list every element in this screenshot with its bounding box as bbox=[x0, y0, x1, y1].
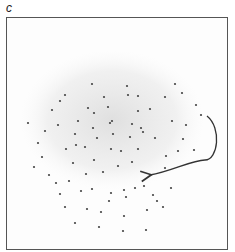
data-point bbox=[123, 189, 125, 191]
data-point bbox=[93, 112, 95, 114]
data-point bbox=[59, 100, 61, 102]
data-point bbox=[123, 215, 125, 217]
data-point bbox=[110, 148, 112, 150]
data-point bbox=[59, 193, 61, 195]
data-point bbox=[111, 120, 113, 122]
data-point bbox=[75, 144, 77, 146]
data-point bbox=[127, 94, 129, 96]
data-point bbox=[177, 150, 179, 152]
data-point bbox=[171, 120, 173, 122]
data-point bbox=[125, 196, 127, 198]
data-point bbox=[200, 114, 202, 116]
data-point bbox=[131, 123, 133, 125]
data-point bbox=[41, 156, 43, 158]
data-point bbox=[134, 187, 136, 189]
data-point bbox=[170, 187, 172, 189]
data-point bbox=[110, 192, 112, 194]
data-point bbox=[74, 133, 76, 135]
data-point bbox=[109, 122, 111, 124]
data-point bbox=[102, 171, 104, 173]
data-point bbox=[122, 230, 124, 232]
data-point bbox=[51, 109, 53, 111]
data-point bbox=[108, 200, 110, 202]
data-point bbox=[162, 206, 164, 208]
data-point bbox=[146, 209, 148, 211]
data-point bbox=[65, 148, 67, 150]
data-point bbox=[103, 96, 105, 98]
data-point bbox=[152, 194, 154, 196]
data-point bbox=[74, 222, 76, 224]
data-point bbox=[149, 108, 151, 110]
data-point bbox=[48, 174, 50, 176]
data-point bbox=[72, 162, 74, 164]
data-point bbox=[131, 161, 133, 163]
data-point bbox=[143, 185, 145, 187]
data-point bbox=[33, 166, 35, 168]
data-point bbox=[145, 229, 147, 231]
data-point bbox=[64, 206, 66, 208]
data-point bbox=[174, 83, 176, 85]
data-point bbox=[156, 200, 158, 202]
data-point bbox=[164, 167, 166, 169]
data-point bbox=[126, 85, 128, 87]
data-point bbox=[117, 165, 119, 167]
data-point bbox=[107, 106, 109, 108]
panel-label: c bbox=[6, 1, 12, 15]
data-point bbox=[57, 124, 59, 126]
data-point bbox=[84, 146, 86, 148]
data-point bbox=[92, 127, 94, 129]
data-point bbox=[185, 124, 187, 126]
data-point bbox=[182, 138, 184, 140]
data-point bbox=[193, 149, 195, 151]
data-point bbox=[165, 155, 167, 157]
data-point bbox=[98, 226, 100, 228]
data-point bbox=[86, 208, 88, 210]
data-point bbox=[64, 94, 66, 96]
data-point bbox=[80, 190, 82, 192]
data-point bbox=[154, 137, 156, 139]
data-point bbox=[142, 131, 144, 133]
data-point bbox=[93, 159, 95, 161]
data-point bbox=[112, 133, 114, 135]
data-point bbox=[91, 188, 93, 190]
data-point bbox=[195, 104, 197, 106]
data-point bbox=[85, 173, 87, 175]
data-point bbox=[164, 96, 166, 98]
data-point bbox=[27, 122, 29, 124]
data-point bbox=[68, 180, 70, 182]
data-point bbox=[137, 95, 139, 97]
data-point bbox=[87, 107, 89, 109]
data-point bbox=[44, 130, 46, 132]
data-point bbox=[137, 148, 139, 150]
data-point bbox=[129, 136, 131, 138]
data-point bbox=[55, 182, 57, 184]
data-point bbox=[96, 137, 98, 139]
data-point bbox=[181, 92, 183, 94]
scatter-plot bbox=[6, 17, 228, 250]
data-point bbox=[77, 120, 79, 122]
data-point bbox=[137, 110, 139, 112]
data-point bbox=[37, 142, 39, 144]
data-point bbox=[91, 83, 93, 85]
data-point bbox=[120, 150, 122, 152]
data-point bbox=[100, 211, 102, 213]
data-point bbox=[140, 127, 142, 129]
